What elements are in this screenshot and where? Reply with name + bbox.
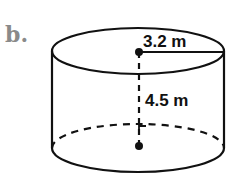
top-center-dot — [135, 48, 143, 56]
bottom-center-dot — [135, 142, 143, 150]
height-label: 4.5 m — [145, 91, 188, 110]
cylinder-diagram: 3.2 m 4.5 m — [0, 0, 239, 189]
bottom-front-arc — [52, 148, 224, 172]
radius-label: 3.2 m — [143, 32, 186, 51]
